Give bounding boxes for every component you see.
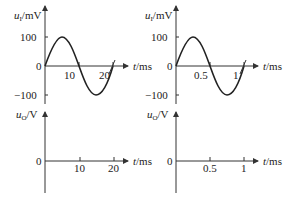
chart-bottom-left: uO/V 0 10 20 t/ms	[16, 108, 152, 193]
chart-top-right: uI/mV 100 0 −100 0.5 1 t/ms	[145, 6, 282, 104]
y-tick-100: 100	[20, 31, 37, 43]
x-tick-1: 1	[241, 162, 247, 174]
x-axis-label: t/ms	[133, 155, 152, 167]
origin-label: 0	[167, 155, 173, 167]
x-tick-10: 10	[64, 69, 76, 81]
y-axis-label: uO/V	[147, 108, 169, 122]
x-tick-20: 20	[108, 162, 120, 174]
origin-label: 0	[167, 60, 173, 72]
origin-label: 0	[36, 155, 42, 167]
chart-top-left: uI/mV 100 0 −100 10 20 t/ms	[14, 6, 152, 104]
chart-bottom-right: uO/V 0 0.5 1 t/ms	[147, 108, 282, 193]
y-tick-neg100: −100	[145, 89, 168, 101]
x-tick-0.5: 0.5	[203, 162, 217, 174]
x-axis-label: t/ms	[133, 60, 152, 72]
x-axis-label: t/ms	[263, 155, 282, 167]
waveform-figure: uI/mV 100 0 −100 10 20 t/ms uI/mV 100 0 …	[0, 0, 291, 208]
x-tick-1: 1	[233, 69, 239, 81]
y-axis-label: uI/mV	[14, 9, 41, 23]
y-axis-label: uO/V	[16, 108, 38, 122]
x-tick-0.5: 0.5	[194, 69, 208, 81]
origin-label: 0	[36, 60, 42, 72]
y-tick-neg100: −100	[14, 89, 37, 101]
y-tick-100: 100	[151, 31, 168, 43]
x-axis-label: t/ms	[263, 60, 282, 72]
x-tick-10: 10	[74, 162, 86, 174]
y-axis-label: uI/mV	[145, 9, 172, 23]
